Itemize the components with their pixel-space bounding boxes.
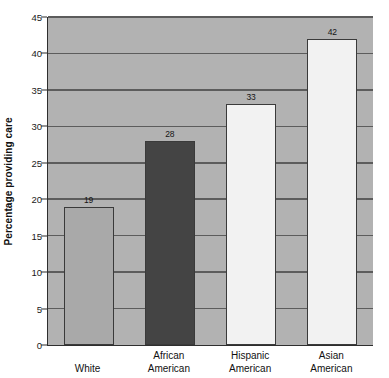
bar-chart-figure: Percentage providing care 05101520253035… bbox=[0, 0, 389, 378]
bar bbox=[145, 141, 195, 345]
y-axis-tick-labels: 051015202530354045 bbox=[18, 17, 42, 345]
bars-layer: 19283342 bbox=[48, 17, 373, 345]
bar-value-label: 19 bbox=[84, 195, 93, 205]
x-axis-category-label-line: American bbox=[148, 363, 190, 376]
x-axis-category-label: AsianAmerican bbox=[310, 350, 352, 375]
x-axis-category-label-line: Asian bbox=[310, 350, 352, 363]
bar bbox=[226, 104, 276, 345]
x-axis-category-label-line: African bbox=[148, 350, 190, 363]
x-axis-category-label: HispanicAmerican bbox=[229, 350, 271, 375]
bar-value-label: 33 bbox=[246, 92, 255, 102]
x-axis-category-labels: WhiteAfricanAmericanHispanicAmericanAsia… bbox=[47, 350, 372, 378]
x-axis-category-label-line: American bbox=[229, 363, 271, 376]
bar bbox=[64, 207, 114, 345]
x-axis-category-label-line: Hispanic bbox=[229, 350, 271, 363]
x-axis-category-label: AfricanAmerican bbox=[148, 350, 190, 375]
plot-area: 19283342 bbox=[47, 17, 373, 346]
bar-value-label: 42 bbox=[328, 27, 337, 37]
y-axis-title-text: Percentage providing care bbox=[3, 117, 14, 245]
x-axis-category-label-line: White bbox=[75, 363, 101, 376]
x-axis-category-label-line: American bbox=[310, 363, 352, 376]
x-axis-category-label: White bbox=[75, 363, 101, 376]
y-axis-title: Percentage providing care bbox=[0, 17, 16, 345]
bar bbox=[307, 39, 357, 345]
bar-value-label: 28 bbox=[165, 129, 174, 139]
